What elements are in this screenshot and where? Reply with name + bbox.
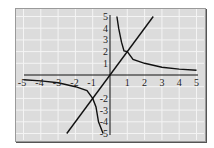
x-tick: 1 xyxy=(125,77,130,88)
x-tick: -5 xyxy=(18,77,26,88)
y-tick: 2 xyxy=(103,46,108,57)
x-tick: -1 xyxy=(87,77,95,88)
y-tick: -5 xyxy=(100,128,108,139)
x-tick: 2 xyxy=(142,77,147,88)
y-tick: 4 xyxy=(103,23,108,34)
series-hyperbola-right xyxy=(117,17,197,71)
x-tick: -3 xyxy=(53,77,61,88)
chart-svg: -5 -4 -3 -2 -1 1 2 3 4 5 5 4 3 2 1 -2 -3… xyxy=(0,0,214,148)
y-tick: 5 xyxy=(103,11,108,22)
x-tick: 3 xyxy=(159,77,164,88)
y-tick: -4 xyxy=(100,116,108,127)
x-tick: 5 xyxy=(194,77,199,88)
y-tick: -2 xyxy=(100,93,108,104)
y-tick: 3 xyxy=(103,34,108,45)
y-tick: -3 xyxy=(100,105,108,116)
x-tick: 4 xyxy=(177,77,182,88)
x-tick: -2 xyxy=(70,77,78,88)
y-tick: 1 xyxy=(103,58,108,69)
x-tick: -4 xyxy=(35,77,43,88)
